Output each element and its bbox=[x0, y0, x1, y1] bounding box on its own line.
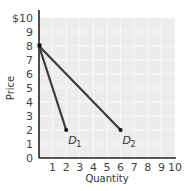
curve-end-point bbox=[119, 128, 123, 132]
y-tick-label: 0 bbox=[26, 152, 33, 165]
y-tick-label: 3 bbox=[26, 110, 33, 123]
x-tick-label: 8 bbox=[144, 161, 151, 174]
y-tick-label: 1 bbox=[26, 138, 33, 151]
x-tick-label: 9 bbox=[158, 161, 165, 174]
y-tick-label: 7 bbox=[26, 54, 33, 67]
y-tick-label: 8 bbox=[26, 40, 33, 53]
x-tick-label: 1 bbox=[49, 161, 56, 174]
y-tick-label: 9 bbox=[26, 26, 33, 39]
curve-end-point bbox=[64, 128, 68, 132]
origin-point bbox=[38, 44, 42, 48]
curve-label-subscript: 1 bbox=[76, 140, 81, 149]
y-tick-label: 4 bbox=[26, 96, 33, 109]
curve-label-subscript: 2 bbox=[131, 140, 136, 149]
x-tick-label: 7 bbox=[131, 161, 138, 174]
x-tick-label: 10 bbox=[168, 161, 182, 174]
x-axis-label: Quantity bbox=[85, 173, 128, 184]
x-tick-label: 2 bbox=[63, 161, 70, 174]
y-tick-label: 2 bbox=[26, 124, 33, 137]
demand-chart: 0123456789$10 12345678910 D1D2 Quantity … bbox=[0, 0, 188, 191]
y-tick-label: 5 bbox=[26, 82, 33, 95]
y-tick-label: 6 bbox=[26, 68, 33, 81]
y-axis-label: Price bbox=[5, 76, 16, 100]
x-tick-label: 3 bbox=[76, 161, 83, 174]
y-tick-label: $10 bbox=[12, 12, 33, 25]
